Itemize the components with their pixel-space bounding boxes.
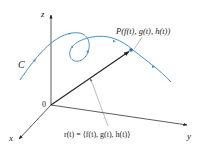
y-axis-label: y	[186, 131, 191, 141]
point-label: P(f(t), g(t), h(t))	[115, 26, 170, 36]
y-axis	[51, 105, 187, 125]
vector-label-leader	[91, 80, 108, 126]
vector-label: r(t) = ⟨f(t), g(t), h(t)⟩	[64, 130, 130, 139]
x-axis	[19, 105, 51, 139]
curve-label: C	[18, 59, 25, 70]
curve-arrow-icon	[113, 40, 116, 43]
z-axis-label: z	[40, 9, 45, 19]
origin-label: 0	[42, 100, 46, 109]
point-p	[129, 48, 133, 52]
leader-arrow-icon	[90, 78, 92, 82]
vector-function-diagram: z x y 0 C P(f(t), g(t), h(t)) r(t) = ⟨f(…	[0, 0, 197, 152]
point-label-leader	[134, 37, 142, 49]
position-vector	[51, 52, 129, 106]
x-axis-label: x	[8, 133, 13, 143]
